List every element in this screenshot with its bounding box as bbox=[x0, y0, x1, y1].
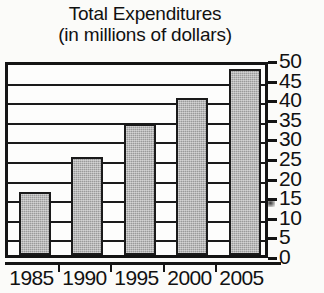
y-tick-mark bbox=[268, 100, 277, 103]
bar-1995 bbox=[124, 124, 156, 255]
y-tick-mark bbox=[268, 218, 277, 221]
x-axis-label-1990: 1990 bbox=[58, 265, 111, 291]
y-tick-mark bbox=[268, 81, 277, 84]
y-tick-mark bbox=[268, 139, 277, 142]
x-axis-label-2000: 2000 bbox=[163, 265, 216, 291]
bar-chart-figure: Total Expenditures (in millions of dolla… bbox=[0, 0, 324, 293]
y-tick-mark bbox=[268, 159, 277, 162]
y-axis: 50454035302520151050 bbox=[268, 62, 324, 258]
y-tick-mark bbox=[268, 120, 277, 123]
bar-2005 bbox=[229, 69, 261, 255]
scan-smudge-artifact bbox=[266, 199, 275, 207]
bar-1985 bbox=[19, 192, 51, 255]
plot-area bbox=[5, 62, 268, 258]
y-tick-mark bbox=[268, 237, 277, 240]
chart-title-line-2: (in millions of dollars) bbox=[0, 24, 290, 45]
x-axis-labels: 19851990199520002005 bbox=[5, 265, 268, 293]
chart-title: Total Expenditures (in millions of dolla… bbox=[0, 3, 290, 46]
bar-2000 bbox=[176, 98, 208, 255]
chart-title-line-1: Total Expenditures bbox=[0, 3, 290, 24]
bars-layer bbox=[8, 65, 265, 255]
x-axis-label-1985: 1985 bbox=[5, 265, 58, 291]
y-tick-mark bbox=[268, 61, 277, 64]
x-axis-label-2005: 2005 bbox=[215, 265, 268, 291]
y-tick-mark bbox=[268, 179, 277, 182]
y-tick-mark bbox=[268, 257, 277, 260]
bar-1990 bbox=[71, 157, 103, 255]
x-axis-label-1995: 1995 bbox=[110, 265, 163, 291]
